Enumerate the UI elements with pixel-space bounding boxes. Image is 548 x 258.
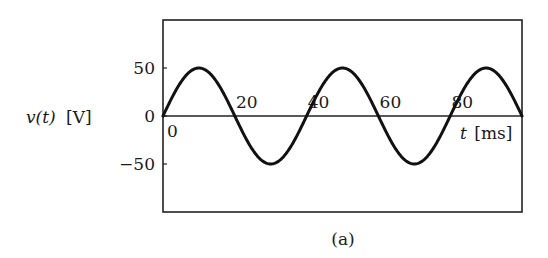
x-tick-label: 0 [167,121,178,141]
y-axis-tick-labels: 500−50 [119,58,155,174]
sine-wave-chart: 500−50 020406080 v(t) [V] t [ms] (a) [0,0,548,258]
y-axis-label: v(t) [V] [26,107,92,127]
x-axis-variable: t [460,123,467,143]
y-axis-variable: v(t) [26,107,56,127]
y-tick-label: 50 [133,58,155,78]
x-axis-label: t [ms] [460,123,512,143]
y-axis-unit: [V] [66,107,92,127]
y-tick-label: 0 [144,106,155,126]
x-tick-label: 60 [380,92,402,112]
x-tick-label: 20 [236,92,258,112]
figure-caption: (a) [331,229,354,249]
y-tick-label: −50 [119,154,155,174]
x-axis-unit: [ms] [474,123,512,143]
